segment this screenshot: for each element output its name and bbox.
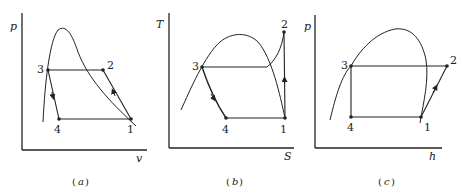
svg-text:b: b [232,176,238,187]
svg-text:): ) [391,176,395,187]
throttle-line-3-4 [48,70,59,119]
state-point-1 [419,115,423,119]
state-point-3 [349,64,353,68]
state-point-3 [46,68,50,72]
arrow-up-icon [113,91,115,96]
point-label-3: 3 [341,59,348,72]
point-label-1: 1 [424,121,431,134]
x-axis-label: h [429,150,436,163]
panel-caption: ( a ) [72,176,89,187]
x-axis-label: S [284,150,292,163]
compression-line-1-2 [284,32,285,118]
state-point-3 [200,65,204,69]
svg-text:(: ( [72,176,76,187]
state-point-1 [129,117,133,121]
point-label-4: 4 [54,123,61,136]
panel-b-ts-diagram: T S 3 2 1 4 ( b ) [156,13,294,187]
throttle-line-3-4 [202,67,226,118]
state-point-4 [224,116,228,120]
point-label-2: 2 [107,59,114,72]
point-label-3: 3 [192,60,199,73]
point-label-3: 3 [37,63,44,76]
svg-text:(: ( [378,176,382,187]
x-axis-label: v [136,152,143,165]
svg-text:a: a [78,176,84,187]
svg-text:(: ( [226,176,230,187]
panel-caption: ( c ) [378,176,395,187]
state-point-4 [57,117,61,121]
panel-c-ph-diagram: p h 3 2 1 4 ( c ) [304,15,457,187]
saturation-dome [330,29,427,123]
state-point-2 [445,64,449,68]
state-point-4 [349,115,353,119]
arrow-up-icon [433,87,436,93]
compression-line-1-2 [103,70,131,119]
saturation-dome [181,35,285,119]
y-axis-label: p [304,20,311,33]
state-point-1 [283,116,287,120]
y-axis-label: p [10,20,17,33]
point-label-1: 1 [127,123,134,136]
svg-text:): ) [239,176,243,187]
diagram-svg: p v 3 2 1 4 ( a ) T S [0,0,463,194]
point-label-2: 2 [450,54,457,67]
refrigeration-cycle-diagrams: p v 3 2 1 4 ( a ) T S [0,0,463,194]
point-label-4: 4 [347,121,354,134]
point-label-4: 4 [222,123,229,136]
panel-a-pv-diagram: p v 3 2 1 4 ( a ) [10,13,147,187]
state-point-2 [101,68,105,72]
y-axis-label: T [156,18,165,31]
point-label-1: 1 [280,123,287,136]
svg-text:c: c [384,176,390,187]
svg-text:): ) [85,176,89,187]
panel-caption: ( b ) [226,176,243,187]
point-label-2: 2 [281,18,288,31]
